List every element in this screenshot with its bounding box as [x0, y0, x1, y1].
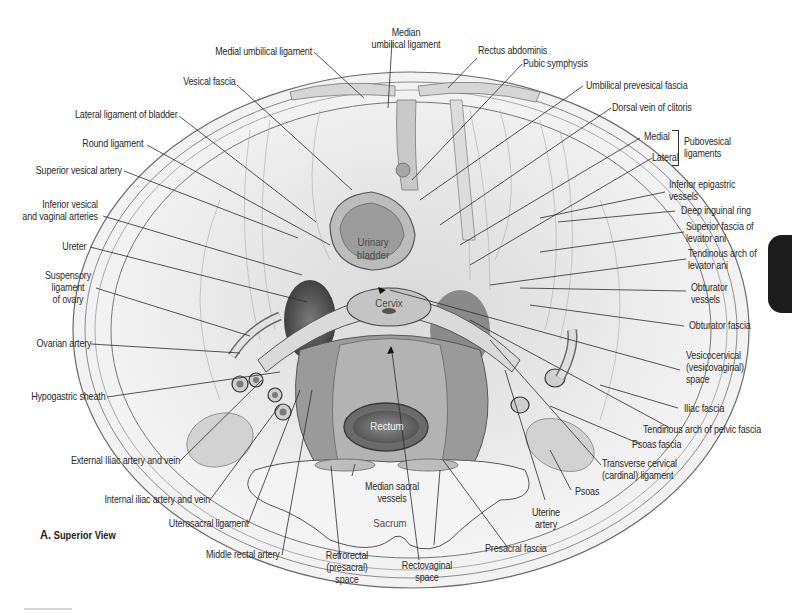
label-obturator-vessels: Obturator vessels	[691, 282, 728, 306]
label-psoas: Psoas	[575, 486, 599, 498]
chapter-thumb-tab	[768, 235, 792, 313]
label-retrorectal-space: Retrorectal (presacral) space	[320, 550, 375, 586]
label-presacral-fascia: Presacral fascia	[485, 543, 547, 555]
label-superior-vesical-artery: Superior vesical artery	[36, 165, 122, 177]
label-round-ligament: Round ligament	[82, 138, 143, 150]
figure-caption: A. Superior View	[40, 527, 116, 542]
label-dorsal-vein-of-clitoris: Dorsal vein of clitoris	[612, 102, 692, 114]
label-pubic-symphysis: Pubic symphysis	[523, 58, 588, 70]
label-rectus-abdominis: Rectus abdominis	[478, 45, 547, 57]
label-obturator-fascia: Obturator fascia	[689, 320, 751, 332]
label-vesicocervical-space: Vesicocervical (vesicovaginal) space	[686, 350, 744, 386]
label-iliac-fascia: Iliac fascia	[684, 403, 724, 415]
label-uterosacral-ligament: Uterosacral ligament	[168, 518, 248, 530]
label-superior-fascia-levator-ani: Superior fascia of levator ani	[686, 221, 753, 245]
label-psoas-fascia: Psoas fascia	[632, 439, 681, 451]
caption-text: Superior View	[54, 529, 116, 541]
label-rectum: Rectum	[361, 420, 412, 433]
label-lateral-ligament-of-bladder: Lateral ligament of bladder	[75, 109, 178, 121]
label-tendinous-arch-levator-ani: Tendinous arch of levator ani	[688, 248, 757, 272]
label-inferior-vesical-vaginal-arteries: Inferior vesical and vaginal arteries	[22, 199, 98, 223]
label-middle-rectal-artery: Middle rectal artery	[206, 549, 280, 561]
label-vesical-fascia: Vesical fascia	[184, 76, 236, 88]
label-medial-umbilical-ligament: Medial umbilical ligament	[215, 46, 312, 58]
label-sacrum: Sacrum	[364, 517, 417, 530]
caption-letter: A.	[40, 527, 51, 542]
label-median-sacral-vessels: Median sacral vessels	[355, 481, 429, 505]
label-hypogastric-sheath: Hypogastric sheath	[32, 391, 106, 403]
label-deep-inguinal-ring: Deep inguinal ring	[681, 205, 751, 217]
label-tendinous-arch-pelvic-fascia: Tendinous arch of pelvic fascia	[643, 424, 761, 436]
label-pubovesical-lateral: Lateral	[652, 152, 678, 164]
label-transverse-cervical-ligament: Transverse cervical (cardinal) ligament	[602, 458, 677, 482]
label-ureter: Ureter	[62, 241, 86, 253]
footer-rule	[24, 608, 72, 610]
label-uterine-artery: Uterine artery	[528, 507, 563, 531]
label-umbilical-prevesical-fascia: Umbilical prevesical fascia	[586, 80, 688, 92]
label-median-umbilical-ligament: Median umbilical ligament	[362, 27, 450, 51]
label-external-iliac-artery-vein: External Iliac artery and vein	[71, 455, 180, 467]
label-urinary-bladder: Urinary bladder	[342, 236, 404, 262]
label-rectovaginal-space: Rectovaginal space	[401, 560, 452, 584]
label-ovarian-artery: Ovarian artery	[36, 338, 91, 350]
label-suspensory-ligament-of-ovary: Suspensory ligament of ovary	[42, 270, 95, 306]
label-cervix: Cervix	[363, 297, 414, 310]
label-internal-iliac-artery-vein: Internal iliac artery and vein	[104, 494, 210, 506]
label-inferior-epigastric-vessels: Inferior epigastric vessels	[669, 179, 735, 203]
label-pubovesical-ligaments: Pubovesical ligaments	[684, 136, 731, 160]
label-pubovesical-medial: Medial	[644, 131, 670, 143]
